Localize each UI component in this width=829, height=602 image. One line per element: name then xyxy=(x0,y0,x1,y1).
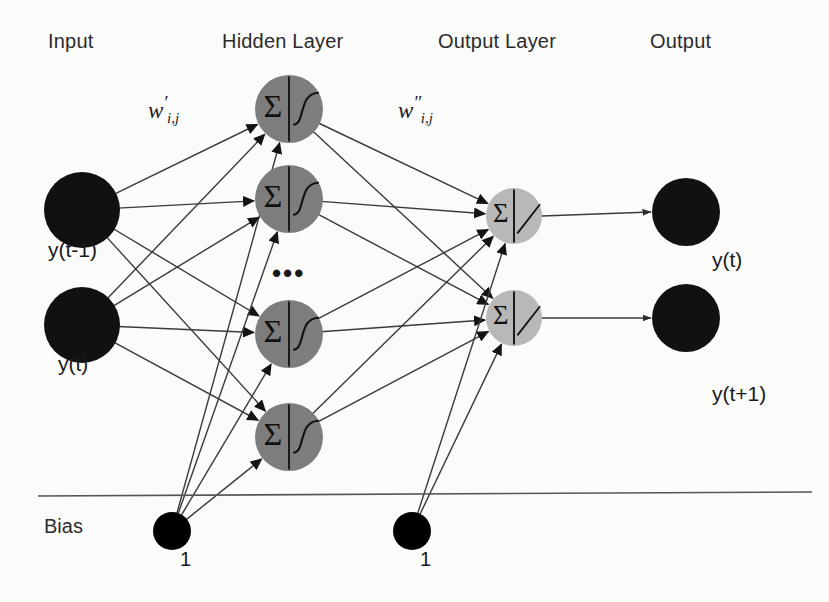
input-node-label: y(t) xyxy=(58,352,88,376)
layer-title-output-layer: Output Layer xyxy=(438,30,556,53)
sigma-symbol: Σ xyxy=(264,88,283,124)
connection-edge xyxy=(317,229,488,319)
hidden-neuron: Σ xyxy=(255,403,323,471)
network-graphics: ΣΣΣΣ ΣΣ xyxy=(0,0,829,602)
connection-edge xyxy=(312,236,493,414)
connection-edge xyxy=(114,342,259,420)
weight-base: w xyxy=(148,98,163,123)
bias-node-value: 1 xyxy=(420,548,431,571)
hidden-neuron: Σ xyxy=(255,75,323,143)
output-layer-nodes-group: ΣΣ xyxy=(486,188,542,346)
weight-label-hidden: w′i,j xyxy=(148,92,179,127)
sigma-symbol: Σ xyxy=(264,313,283,349)
hidden-neuron: Σ xyxy=(255,300,323,368)
connection-edge xyxy=(113,217,259,306)
edges-input-to-hidden xyxy=(106,124,265,420)
output-node xyxy=(652,284,720,352)
connection-edge xyxy=(178,232,278,515)
input-node xyxy=(44,172,120,248)
hidden-layer-ellipsis: ••• xyxy=(272,258,305,289)
sigma-symbol: Σ xyxy=(493,198,508,228)
bias-node xyxy=(153,512,191,550)
connection-edge xyxy=(312,131,492,298)
bias-node-value: 1 xyxy=(180,548,191,571)
edges-outputlayer-to-output xyxy=(542,212,651,318)
connection-edge xyxy=(118,201,254,208)
connection-edge xyxy=(113,228,259,316)
connection-edge xyxy=(321,201,485,213)
hidden-neuron: Σ xyxy=(255,165,323,233)
bias-nodes-group xyxy=(153,512,431,550)
bias-node xyxy=(393,512,431,550)
layer-title-output: Output xyxy=(650,30,711,53)
weight-base: w xyxy=(398,98,413,123)
sigma-symbol: Σ xyxy=(493,300,508,330)
sigma-symbol: Σ xyxy=(264,178,283,214)
weight-subscript: i,j xyxy=(421,110,433,126)
input-node-label: y(t-1) xyxy=(48,238,97,262)
neural-network-diagram: ΣΣΣΣ ΣΣ Input Hidden Layer Output Layer … xyxy=(0,0,829,602)
connection-edge xyxy=(419,344,501,516)
connection-edge xyxy=(542,212,651,216)
connection-edge xyxy=(317,332,488,422)
weight-subscript: i,j xyxy=(167,110,179,126)
connection-edge xyxy=(114,124,257,194)
output-node-label: y(t) xyxy=(712,248,742,272)
output-layer-neuron: Σ xyxy=(486,188,542,244)
input-nodes-group xyxy=(44,172,120,363)
output-node xyxy=(652,178,720,246)
connection-edge xyxy=(318,123,488,204)
output-nodes-group xyxy=(652,178,720,352)
connection-edge xyxy=(317,214,488,304)
bias-label: Bias xyxy=(44,515,83,538)
weight-label-output: w″i,j xyxy=(398,92,433,127)
sigma-symbol: Σ xyxy=(264,416,283,452)
connection-edge xyxy=(417,244,505,515)
edges-hidden-to-outputlayer xyxy=(312,123,493,422)
output-layer-neuron: Σ xyxy=(486,290,542,346)
weight-prime: ″ xyxy=(413,92,420,113)
edges-bias-to-outputlayer xyxy=(417,244,505,516)
layer-title-hidden: Hidden Layer xyxy=(222,30,343,53)
connection-edge xyxy=(106,237,265,412)
output-node-label: y(t+1) xyxy=(712,382,766,406)
layer-title-input: Input xyxy=(48,30,93,53)
connection-edge xyxy=(118,327,254,333)
